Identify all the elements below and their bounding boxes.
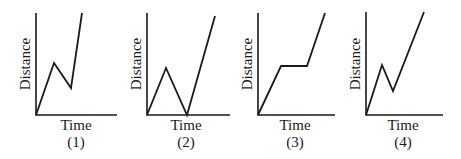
graph-4-y-label: Distance	[347, 37, 363, 90]
graph-4-curve	[366, 12, 424, 115]
graph-3: Distance Time (3)	[239, 13, 335, 151]
graph-4: Distance Time (4)	[347, 12, 443, 151]
graph-3-axes	[258, 13, 335, 115]
graph-2-y-label: Distance	[128, 37, 144, 90]
distance-time-graphs: Distance Time (1) Distance Time (2) Dist…	[0, 0, 461, 159]
graph-1-x-label: Time	[60, 117, 91, 133]
graph-3-y-label: Distance	[239, 37, 255, 90]
graph-4-x-label: Time	[387, 117, 418, 133]
graph-3-caption: (3)	[286, 134, 304, 151]
graph-4-caption: (4)	[394, 134, 412, 151]
graph-3-x-label: Time	[279, 117, 310, 133]
graph-2-x-label: Time	[170, 117, 201, 133]
graph-2-curve	[147, 16, 215, 115]
graph-1-curve	[36, 13, 82, 115]
graph-3-curve	[258, 13, 325, 115]
graph-1-y-label: Distance	[17, 37, 33, 90]
graph-2-caption: (2)	[177, 134, 195, 151]
graph-1-caption: (1)	[67, 134, 85, 151]
graph-1: Distance Time (1)	[17, 13, 117, 151]
graph-2: Distance Time (2)	[128, 13, 230, 151]
graph-1-axes	[36, 13, 117, 115]
graph-2-axes	[147, 13, 230, 115]
